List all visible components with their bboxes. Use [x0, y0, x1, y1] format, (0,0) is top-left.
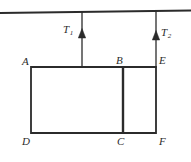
vertex-label-b: B — [116, 55, 123, 66]
tension-label-t2-base: T — [161, 26, 167, 38]
tension-label-t1: T1 — [63, 24, 73, 35]
tension-arrowhead-t2 — [152, 31, 159, 41]
ceiling-line — [0, 11, 191, 14]
physics-diagram-figure: A B E D C F T1 T2 — [0, 0, 191, 162]
vertex-label-c: C — [117, 136, 124, 147]
block-outline — [31, 67, 156, 133]
vertex-label-d: D — [22, 136, 30, 147]
tension-label-t2-subscript: 2 — [168, 32, 172, 40]
vertex-label-f: F — [159, 136, 166, 147]
tension-label-t1-subscript: 1 — [70, 29, 74, 37]
tension-label-t1-base: T — [63, 23, 69, 35]
tension-arrowhead-t1 — [78, 29, 85, 39]
vertex-label-e: E — [159, 55, 166, 66]
vertex-label-a: A — [22, 56, 29, 67]
tension-label-t2: T2 — [161, 27, 171, 38]
